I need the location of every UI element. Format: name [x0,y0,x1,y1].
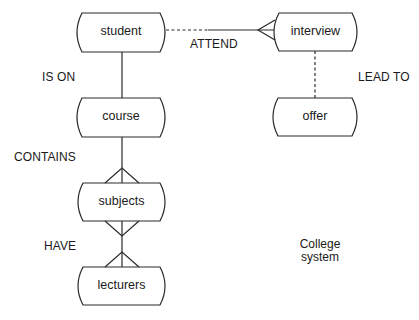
entity-label-course: course [82,109,160,123]
entity-label-lecturers: lecturers [83,278,160,292]
entity-label-student: student [82,24,160,38]
entity-label-offer: offer [278,109,352,123]
entity-label-subjects: subjects [83,194,160,208]
relationship-label-have: HAVE [44,239,76,253]
relationship-label-is-on: IS ON [42,70,75,84]
relationship-label-lead-to: LEAD TO [358,70,410,84]
diagram-note: College system [292,238,348,264]
relationship-label-contains: CONTAINS [14,150,76,164]
entity-label-interview: interview [279,24,352,38]
relationship-label-attend: ATTEND [190,37,238,51]
